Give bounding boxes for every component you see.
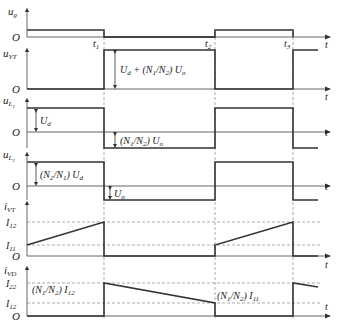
tmark-t1: t1: [93, 38, 99, 51]
annot-iVD-peak: (N1/N2) I12: [32, 284, 75, 297]
annot-uL1-neg: (N1/N2) Uo: [120, 135, 164, 148]
annot-iVD-min: (N1/N2) I11: [217, 290, 259, 303]
origin-ug: O: [12, 31, 20, 43]
t-label-uVT: t: [325, 91, 328, 102]
origin-uVT: O: [12, 83, 20, 95]
annot-uL2-neg: Uo: [114, 188, 125, 201]
origin-uL2: O: [12, 180, 20, 192]
annot-uL2-pos: (N2/N1) Ud: [40, 169, 84, 182]
label-uL2: uL2: [3, 148, 15, 163]
label-uVT: uVT: [3, 47, 18, 61]
row-uL1: [27, 100, 330, 148]
waveform-diagram: ug O uVT O uL1 O uL2 O iVT I12 I11 O iVD…: [0, 0, 338, 331]
t-label-uL1: t: [325, 127, 328, 138]
tmark-t2: t2: [205, 38, 212, 51]
annot-uVT: Ud + (N1/N2) Uo: [120, 64, 186, 77]
t-label-ug: t: [325, 39, 328, 50]
label-uL1: uL1: [3, 94, 15, 109]
origin-uL1: O: [12, 126, 20, 138]
label-iVT: iVT: [4, 200, 16, 214]
t-label-iVT: t: [325, 259, 328, 270]
annot-uL1-pos: Ud: [40, 115, 51, 128]
level-I22: I22: [5, 278, 17, 291]
origin-iVT: O: [12, 250, 20, 262]
level-I12: I12: [5, 217, 17, 230]
t-label-uL2: t: [325, 181, 328, 192]
row-ug: [27, 10, 330, 37]
label-iVD: iVD: [4, 264, 16, 278]
label-ug: ug: [8, 5, 18, 19]
row-iVT: [27, 203, 330, 256]
axis-labels: ug O uVT O uL1 O uL2 O iVT I12 I11 O iVD…: [3, 5, 328, 322]
tmark-t3: t3: [284, 38, 291, 51]
origin-iVD: O: [12, 310, 20, 322]
t-label-iVD: t: [325, 301, 328, 312]
